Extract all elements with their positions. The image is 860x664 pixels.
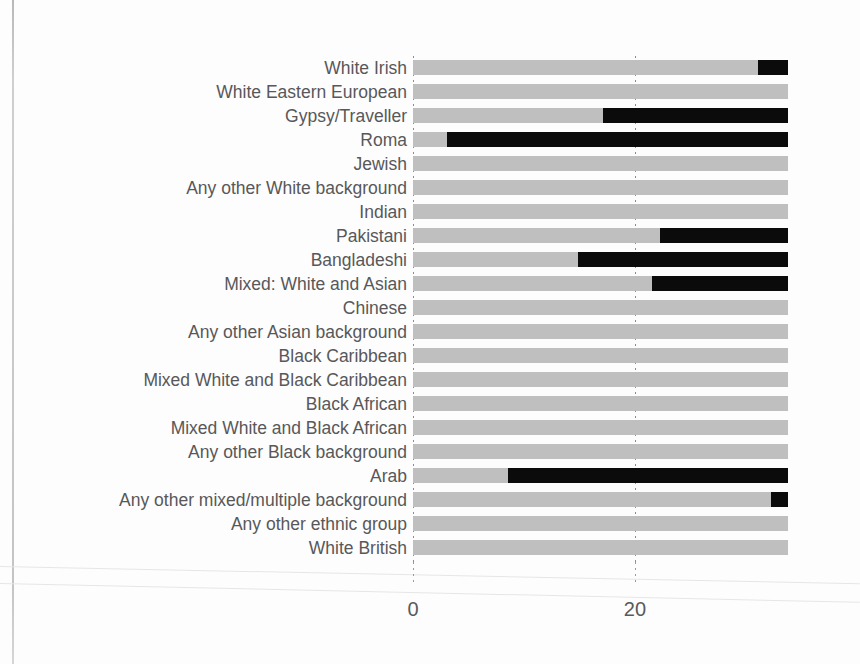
category-label: White Eastern European [216, 80, 407, 104]
bar-row: Any other Asian background [413, 320, 788, 344]
bar-segment [578, 252, 788, 267]
bar-segment [508, 468, 788, 483]
bar-track [413, 300, 788, 315]
category-label: White British [309, 536, 407, 560]
category-label: Gypsy/Traveller [285, 104, 407, 128]
category-label: Any other ethnic group [231, 512, 407, 536]
bar-row: Pakistani [413, 224, 788, 248]
category-label: Bangladeshi [311, 248, 407, 272]
bar-track [413, 348, 788, 363]
category-label: Mixed White and Black African [171, 416, 407, 440]
tick-mark-x [413, 562, 414, 586]
bar-row: White Eastern European [413, 80, 788, 104]
bar-row: Jewish [413, 152, 788, 176]
bar-segment [758, 60, 788, 75]
bar-track [413, 444, 788, 459]
bar-row: White British [413, 536, 788, 560]
category-label: Mixed White and Black Caribbean [143, 368, 407, 392]
plot-area: White IrishWhite Eastern EuropeanGypsy/T… [413, 56, 788, 556]
bar-track [413, 324, 788, 339]
x-axis-tick-label: 0 [383, 598, 443, 621]
bar-segment [771, 492, 788, 507]
category-label: Black African [306, 392, 407, 416]
bar-track [413, 420, 788, 435]
bar-track [413, 372, 788, 387]
bar-row: Black African [413, 392, 788, 416]
bar-track [413, 180, 788, 195]
category-label: Any other White background [186, 176, 407, 200]
bar-track [413, 396, 788, 411]
category-label: Any other Black background [188, 440, 407, 464]
category-label: White Irish [324, 56, 407, 80]
category-label: Jewish [354, 152, 408, 176]
category-label: Chinese [343, 296, 407, 320]
tick-mark-x [635, 562, 636, 586]
bar-row: Black Caribbean [413, 344, 788, 368]
category-label: Any other Asian background [188, 320, 407, 344]
bar-track [413, 516, 788, 531]
bar-track [413, 84, 788, 99]
bar-segment [603, 108, 788, 123]
bar-track [413, 204, 788, 219]
bar-row: Any other ethnic group [413, 512, 788, 536]
bar-row: Roma [413, 128, 788, 152]
bar-row: Any other Black background [413, 440, 788, 464]
x-axis-tick-label: 20 [605, 598, 665, 621]
bar-row: Gypsy/Traveller [413, 104, 788, 128]
bar-row: Mixed White and Black Caribbean [413, 368, 788, 392]
bar-row: Mixed White and Black African [413, 416, 788, 440]
category-label: Pakistani [336, 224, 407, 248]
category-label: Any other mixed/multiple background [119, 488, 407, 512]
bar-row: Bangladeshi [413, 248, 788, 272]
bar-track [413, 540, 788, 555]
bar-row: Indian [413, 200, 788, 224]
bar-row: Arab [413, 464, 788, 488]
bar-segment [447, 132, 788, 147]
bar-track [413, 60, 788, 75]
category-label: Roma [360, 128, 407, 152]
bar-track [413, 492, 788, 507]
bar-segment [660, 228, 788, 243]
category-label: Black Caribbean [279, 344, 407, 368]
bar-track [413, 156, 788, 171]
category-label: Indian [359, 200, 407, 224]
bar-row: Chinese [413, 296, 788, 320]
category-label: Arab [370, 464, 407, 488]
bar-row: White Irish [413, 56, 788, 80]
category-label: Mixed: White and Asian [224, 272, 407, 296]
bar-row: Any other mixed/multiple background [413, 488, 788, 512]
bar-segment [652, 276, 788, 291]
bar-row: Mixed: White and Asian [413, 272, 788, 296]
bar-row: Any other White background [413, 176, 788, 200]
